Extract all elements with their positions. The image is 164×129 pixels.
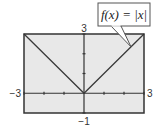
x-max-label: 3 [147,88,153,99]
graphing-calculator-chart: −3 3 −1 3 f(x) = |x| [0,0,164,129]
y-max-label: 3 [81,23,87,34]
function-label: f(x) = |x| [101,7,147,22]
y-min-label: −1 [78,116,90,127]
x-min-label: −3 [10,88,22,99]
